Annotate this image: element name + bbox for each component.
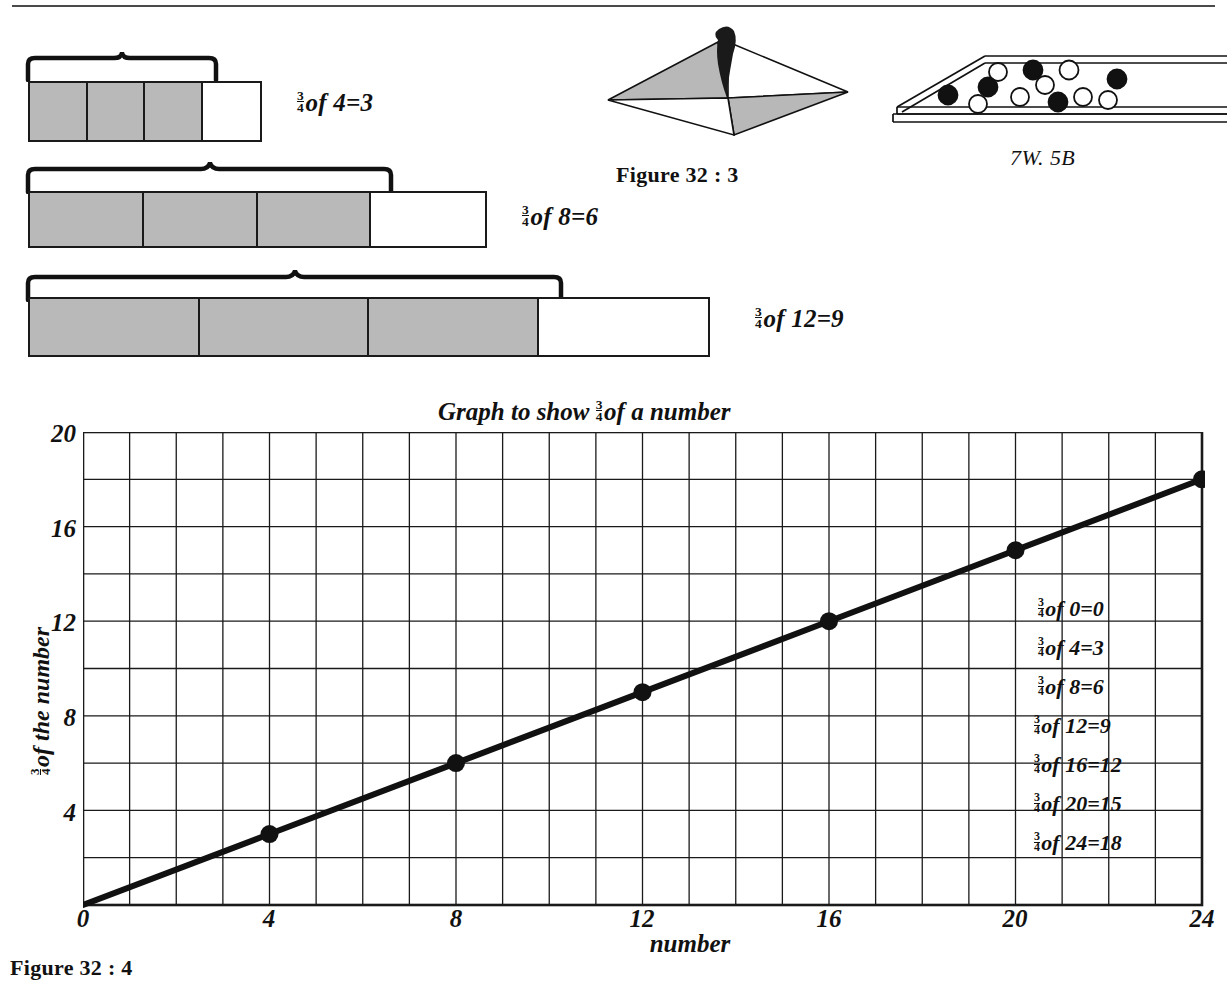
bar-label-8: 3 4 of 8=6 [522, 203, 598, 231]
bar-cell [203, 83, 261, 140]
ball-white [969, 95, 987, 113]
figure-7w5b-caption: 7W. 5B [1010, 145, 1075, 171]
graph-annotation-text: of 20=15 [1041, 791, 1121, 816]
bar-cell [144, 193, 258, 246]
figure-32-3-caption: Figure 32 : 3 [616, 162, 739, 188]
ball-white [1099, 91, 1117, 109]
graph-annotation-text: of 12=9 [1041, 713, 1110, 738]
graph-annotation-text: of 0=0 [1045, 596, 1103, 621]
graph-annotation-list: 3 4 of 0=0 3 4 of 4=3 3 4 of 8=6 3 4 of … [1030, 596, 1220, 856]
graph-x-tick: 24 [1182, 905, 1222, 933]
bar-label-text: of 8=6 [531, 203, 599, 230]
graph-x-tick: 20 [995, 905, 1035, 933]
graph-title-suffix: of a number [604, 398, 730, 425]
graph-annotation-text: of 8=6 [1045, 674, 1103, 699]
graph-annotation-text: of 24=18 [1041, 830, 1121, 855]
bar-label-text: of 4=3 [306, 89, 374, 116]
bar-cell [30, 83, 88, 140]
graph-y-tick: 8 [36, 704, 76, 732]
fraction-three-quarters: 3 4 [30, 769, 52, 775]
page-top-rule [12, 5, 1215, 7]
bar-cell [258, 193, 372, 246]
ball-white [1074, 88, 1092, 106]
bar-cell [369, 299, 539, 355]
bar-cell [145, 83, 203, 140]
fraction-three-quarters: 3 4 [755, 306, 762, 329]
graph-title-prefix: Graph to show [438, 398, 589, 425]
ball-black [1049, 93, 1068, 112]
graph-annotation: 3 4 of 24=18 [1034, 830, 1122, 856]
fraction-three-quarters: 3 4 [522, 204, 529, 227]
ball-black [1108, 70, 1127, 89]
figure-32-4-caption: Figure 32 : 4 [10, 955, 133, 981]
graph-x-tick: 12 [622, 905, 662, 933]
bar-label-12: 3 4 of 12=9 [755, 305, 844, 333]
graph-annotation: 3 4 of 8=6 [1038, 674, 1104, 700]
ball-white [1036, 76, 1054, 94]
graph-y-tick: 12 [36, 609, 76, 637]
data-point-marker [820, 612, 838, 630]
graph-annotation: 3 4 of 20=15 [1034, 791, 1122, 817]
data-point-marker [447, 754, 465, 772]
bar-label-text: of 12=9 [764, 305, 844, 332]
kite-figure [600, 20, 860, 140]
graph-annotation-text: of 16=12 [1041, 752, 1121, 777]
fraction-three-quarters: 3 4 [1038, 676, 1044, 696]
bar-cell [30, 299, 200, 355]
data-point-marker [1007, 541, 1025, 559]
ball-black [979, 78, 998, 97]
fraction-three-quarters: 3 4 [1038, 598, 1044, 618]
ball-black [939, 86, 958, 105]
graph-x-axis-label: number [590, 930, 790, 958]
graph-x-tick: 16 [809, 905, 849, 933]
fraction-three-quarters: 3 4 [1038, 637, 1044, 657]
fraction-three-quarters: 3 4 [1034, 754, 1040, 774]
graph-y-axis-label-text: of the number [28, 627, 54, 767]
fraction-three-quarters: 3 4 [1034, 832, 1040, 852]
fraction-three-quarters: 3 4 [1034, 715, 1040, 735]
bar-diagram-12 [28, 297, 710, 357]
graph-y-tick: 4 [36, 799, 76, 827]
graph-annotation: 3 4 of 0=0 [1038, 596, 1104, 622]
graph-title: Graph to show 3 4 of a number [438, 398, 730, 426]
bar-cell [88, 83, 146, 140]
ball-black [1024, 61, 1043, 80]
graph-y-axis-label: 3 4 of the number [28, 627, 55, 775]
fraction-three-quarters: 3 4 [596, 399, 603, 422]
bar-cell [30, 193, 144, 246]
graph-y-tick: 16 [36, 515, 76, 543]
bar-cell [200, 299, 370, 355]
bar-cell [539, 299, 709, 355]
graph-x-tick: 8 [436, 905, 476, 933]
bar-label-4: 3 4 of 4=3 [297, 89, 373, 117]
fraction-three-quarters: 3 4 [297, 90, 304, 113]
brace-bar-8 [25, 162, 395, 194]
brace-bar-4 [25, 52, 220, 82]
fraction-three-quarters: 3 4 [1034, 793, 1040, 813]
graph-x-tick: 4 [249, 905, 289, 933]
bar-diagram-8 [28, 191, 487, 248]
ball-white [1060, 61, 1079, 80]
graph-x-tick: 0 [63, 905, 103, 933]
graph-annotation: 3 4 of 12=9 [1034, 713, 1111, 739]
data-point-marker [634, 683, 652, 701]
graph-annotation: 3 4 of 4=3 [1038, 635, 1104, 661]
graph-annotation-text: of 4=3 [1045, 635, 1103, 660]
figure-page: 3 4 of 4=3 3 4 of 8=6 3 4 of 12=9 [0, 0, 1227, 999]
ball-white [1011, 88, 1029, 106]
graph-y-tick: 20 [36, 420, 76, 448]
bar-cell [371, 193, 485, 246]
graph-annotation: 3 4 of 16=12 [1034, 752, 1122, 778]
bar-diagram-4 [28, 81, 262, 142]
data-point-marker [261, 825, 279, 843]
tray-figure [885, 42, 1227, 142]
